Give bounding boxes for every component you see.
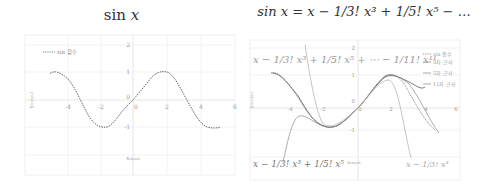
- legend: sin 함수: [43, 48, 77, 56]
- svg-text:5차 근사: 5차 근사: [433, 70, 453, 77]
- svg-text:-2: -2: [98, 103, 104, 110]
- order11-curve: [271, 73, 425, 127]
- gridlines: [25, 35, 235, 175]
- svg-text:-4: -4: [65, 103, 71, 110]
- svg-text:-2: -2: [320, 106, 325, 112]
- svg-text:-1: -1: [124, 123, 130, 130]
- left-chart-panel: sin x -4 -2 0 2 4 6 2 1 0: [0, 0, 243, 189]
- x-tick-labels: -4 -2 0 2 4 6: [287, 106, 458, 112]
- annotation-5th: x − 1/3! x³ + 1/5! x⁵: [253, 159, 344, 169]
- svg-text:2: 2: [126, 41, 130, 48]
- svg-text:0: 0: [134, 103, 138, 110]
- right-plot: -4 -2 0 2 4 6 2 1 0 -1 youtput xinput si…: [243, 0, 485, 189]
- svg-text:6: 6: [233, 103, 237, 110]
- y-axis-label: youtput: [27, 91, 35, 109]
- y-axis-label: youtput: [248, 91, 255, 109]
- svg-text:1: 1: [352, 72, 356, 78]
- y-tick-labels: 2 1 0 -1: [124, 41, 130, 130]
- svg-text:4: 4: [199, 103, 203, 110]
- svg-text:2: 2: [352, 45, 356, 51]
- svg-text:youtput: youtput: [27, 91, 35, 109]
- svg-text:0: 0: [352, 98, 356, 104]
- x-axis-label: xinput: [347, 159, 361, 165]
- x-axis-label: xinput: [126, 154, 140, 161]
- svg-text:-4: -4: [287, 106, 293, 112]
- svg-text:11차 근사: 11차 근사: [433, 81, 456, 88]
- svg-text:1: 1: [126, 68, 130, 75]
- right-chart-panel: sin x = x − 1/3! x³ + 1/5! x⁵ − … -4 -2 …: [243, 0, 485, 189]
- x-tick-labels: -4 -2 0 2 4 6: [65, 103, 237, 110]
- svg-text:0: 0: [126, 93, 130, 100]
- svg-text:youtput: youtput: [248, 91, 255, 109]
- svg-text:2: 2: [389, 106, 393, 112]
- svg-text:6: 6: [454, 106, 458, 112]
- svg-text:sin 함수: sin 함수: [57, 48, 77, 56]
- annotation-11th: x − 1/3! x³ + 1/5! x⁵ + ⋯ − 1/11! x¹¹: [253, 54, 437, 65]
- svg-text:-1: -1: [350, 127, 355, 133]
- left-plot: -4 -2 0 2 4 6 2 1 0 -1 youtput xinput si…: [0, 0, 243, 189]
- order5-curve: [283, 75, 439, 162]
- svg-text:2: 2: [165, 103, 169, 110]
- plot-frame: [25, 35, 235, 175]
- annotation-3rd: x − 1/3! x³: [406, 160, 449, 169]
